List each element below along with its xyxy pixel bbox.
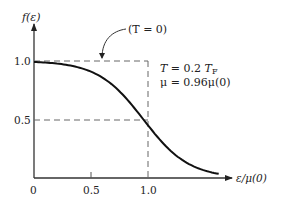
- x-tick-label-0: 0: [30, 184, 37, 196]
- temperature-annotation: T = 0.2 TF: [160, 62, 218, 76]
- t-zero-annotation: (T = 0): [128, 23, 167, 36]
- mu-annotation: μ = 0.96μ(0): [160, 76, 231, 89]
- y-tick-label-0.5: 0.5: [14, 114, 31, 126]
- y-axis-label: f(ε): [21, 11, 41, 24]
- fermi-dirac-chart: f(ε) ε/μ(0) 0 0.5 1.0 1.0 0.5 (T = 0) T …: [0, 0, 282, 200]
- x-axis-label: ε/μ(0): [236, 172, 267, 184]
- fermi-subscript: F: [212, 67, 218, 76]
- x-tick-label-0.5: 0.5: [83, 184, 100, 196]
- annotation-arrow: [102, 29, 126, 58]
- temp-value: = 0.2: [167, 62, 204, 75]
- y-tick-label-1.0: 1.0: [14, 55, 31, 67]
- x-tick-label-1.0: 1.0: [140, 184, 157, 196]
